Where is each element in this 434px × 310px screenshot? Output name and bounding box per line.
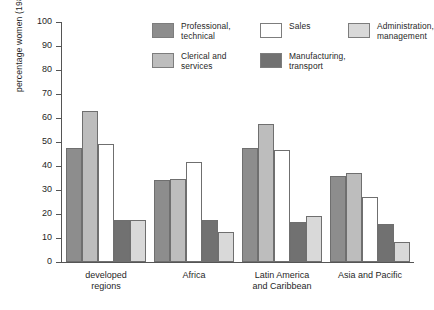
- y-axis-tick-label: 90: [42, 40, 52, 50]
- y-axis-tick: 20: [56, 214, 62, 215]
- bar: [394, 242, 410, 262]
- y-axis-tick: 90: [56, 46, 62, 47]
- bar: [114, 220, 130, 262]
- x-axis-category-label: Asia and Pacific: [314, 270, 426, 281]
- bar: [258, 124, 274, 262]
- y-axis-tick: 10: [56, 238, 62, 239]
- y-axis-tick: 30: [56, 190, 62, 191]
- y-axis-tick-label: 20: [42, 208, 52, 218]
- bar: [362, 197, 378, 262]
- bar: [186, 162, 202, 262]
- plot-area: 0102030405060708090100developed regionsA…: [62, 22, 414, 262]
- y-axis-tick-label: 70: [42, 88, 52, 98]
- y-axis-tick: 100: [56, 22, 62, 23]
- y-axis-tick-label: 40: [42, 160, 52, 170]
- bar: [130, 220, 146, 262]
- bar: [330, 176, 346, 262]
- y-axis-tick-label: 0: [47, 256, 52, 266]
- bar-group: [154, 22, 234, 262]
- y-axis-tick: 70: [56, 94, 62, 95]
- bar-chart: Professional, technicalClerical and serv…: [0, 0, 434, 310]
- bar: [274, 150, 290, 262]
- bar: [218, 232, 234, 262]
- y-axis-tick: 40: [56, 166, 62, 167]
- y-axis-tick-label: 80: [42, 64, 52, 74]
- bar-group: [242, 22, 322, 262]
- bar: [242, 148, 258, 262]
- y-axis-tick-label: 60: [42, 112, 52, 122]
- bar: [66, 148, 82, 262]
- y-axis-tick-label: 30: [42, 184, 52, 194]
- y-axis-tick: 80: [56, 70, 62, 71]
- y-axis-tick-label: 10: [42, 232, 52, 242]
- bar: [346, 173, 362, 262]
- bar: [290, 222, 306, 262]
- bar: [98, 144, 114, 262]
- bar: [202, 220, 218, 262]
- y-axis-tick-label: 50: [42, 136, 52, 146]
- y-axis-tick: 50: [56, 142, 62, 143]
- bar-group: [66, 22, 146, 262]
- bar: [82, 111, 98, 262]
- bar: [170, 179, 186, 262]
- x-axis-line: [61, 262, 414, 263]
- bar: [154, 180, 170, 262]
- y-axis-tick: 60: [56, 118, 62, 119]
- y-axis-tick-label: 100: [37, 16, 52, 26]
- bar: [378, 224, 394, 262]
- y-axis-title: percentage women (1980s): [14, 78, 24, 92]
- bar: [306, 216, 322, 262]
- bar-group: [330, 22, 410, 262]
- y-axis-tick: 0: [56, 262, 62, 263]
